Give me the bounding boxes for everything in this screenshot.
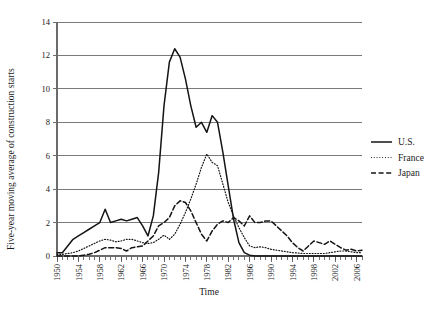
legend: U.S.FranceJapan [371, 137, 424, 178]
x-axis-tick-labels: 1950195419581962196619701974197819821986… [52, 263, 362, 281]
series-line-us [57, 49, 362, 256]
x-tick-label: 1954 [74, 263, 84, 281]
x-axis-major-ticks-group [57, 256, 357, 262]
legend-label-france: France [398, 153, 424, 163]
x-tick-label: 1950 [52, 264, 62, 281]
x-tick-label: 1990 [266, 264, 276, 281]
legend-label-us: U.S. [398, 137, 415, 147]
x-tick-label: 2002 [330, 264, 340, 281]
y-tick-label: 14 [42, 17, 51, 27]
y-axis-tick-labels: 02468101214 [42, 17, 51, 261]
series-line-france [57, 154, 362, 254]
y-tick-label: 4 [46, 184, 51, 194]
x-tick-label: 1998 [309, 264, 319, 281]
legend-label-japan: Japan [398, 168, 420, 178]
x-axis-title: Time [199, 287, 219, 297]
x-tick-label: 2006 [352, 264, 362, 281]
series-line-japan [57, 201, 362, 256]
x-tick-label: 1958 [95, 264, 105, 281]
x-tick-label: 1986 [245, 264, 255, 281]
y-tick-label: 0 [46, 251, 50, 261]
x-tick-label: 1994 [288, 263, 298, 281]
x-tick-label: 1962 [116, 264, 126, 281]
x-tick-label: 1974 [181, 263, 191, 281]
y-tick-label: 2 [46, 218, 50, 228]
x-tick-label: 1970 [159, 264, 169, 281]
y-tick-label: 8 [46, 117, 50, 127]
x-tick-label: 1966 [138, 264, 148, 281]
x-tick-label: 1982 [223, 264, 233, 281]
data-series-group [57, 49, 362, 256]
x-tick-label: 1978 [202, 264, 212, 281]
y-tick-label: 10 [42, 84, 51, 94]
y-tick-label: 6 [46, 151, 50, 161]
line-chart-figure: 02468101214 1950195419581962196619701974… [0, 0, 436, 310]
y-axis-title: Five-year moving average of construction… [6, 68, 16, 250]
y-tick-label: 12 [42, 50, 51, 60]
y-axis-ticks-group [53, 22, 57, 256]
